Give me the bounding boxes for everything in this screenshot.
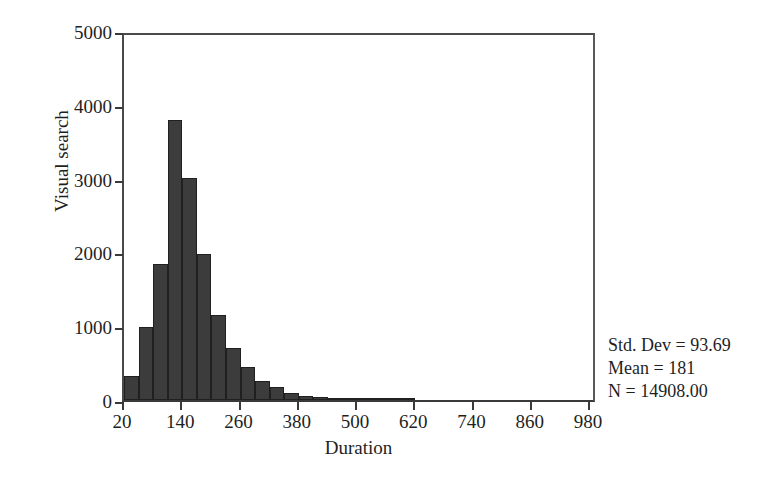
histogram-bar [386,398,401,400]
histogram-bar [313,397,328,400]
histogram-bar [182,178,197,400]
histogram-bar [299,396,314,400]
y-axis-tick [115,328,123,330]
x-axis-tick-label-wrap: 980 [548,411,628,433]
x-axis-tick [413,402,415,410]
histogram-bar [372,398,387,400]
histogram-bar [284,393,299,400]
histogram-bar [342,398,357,400]
histogram-bar [255,381,270,400]
x-axis-tick [472,402,474,410]
statistics-annotation: Std. Dev = 93.69 Mean = 181 N = 14908.00 [608,334,731,403]
histogram-bar [168,120,183,400]
histogram-bar [270,387,285,400]
histogram-bar [401,398,416,400]
y-axis-tick-label: 1000 [42,318,112,337]
x-axis-tick [122,402,124,410]
histogram-bar [211,315,226,400]
x-axis-tick [180,402,182,410]
x-axis-tick [239,402,241,410]
y-axis-tick [115,254,123,256]
x-axis-tick [588,402,590,410]
y-axis-tick-label: 2000 [42,244,112,263]
histogram-bar [124,376,139,400]
y-axis-tick-label: 5000 [42,23,112,42]
n-text: N = 14908.00 [608,380,731,403]
y-axis-tick [115,33,123,35]
histogram-bar [226,348,241,400]
x-axis-tick-label: 980 [548,411,628,433]
y-axis-tick [115,181,123,183]
x-axis-tick [297,402,299,410]
y-axis-tick-label: 0 [42,392,112,411]
x-axis-tick [355,402,357,410]
histogram-bar [139,327,154,400]
y-axis-tick [115,107,123,109]
histogram-figure: 010002000300040005000 201402603805006207… [0,0,773,479]
mean-text: Mean = 181 [608,357,731,380]
histogram-bar [241,367,256,400]
plot-area [122,33,595,402]
y-axis-title: Visual search [51,81,73,241]
std-dev-text: Std. Dev = 93.69 [608,334,731,357]
histogram-bar [328,398,343,400]
histogram-bars [124,35,593,400]
histogram-bar [357,398,372,400]
x-axis-tick [530,402,532,410]
histogram-bar [197,254,212,400]
histogram-bar [153,264,168,400]
x-axis-title: Duration [122,437,595,459]
